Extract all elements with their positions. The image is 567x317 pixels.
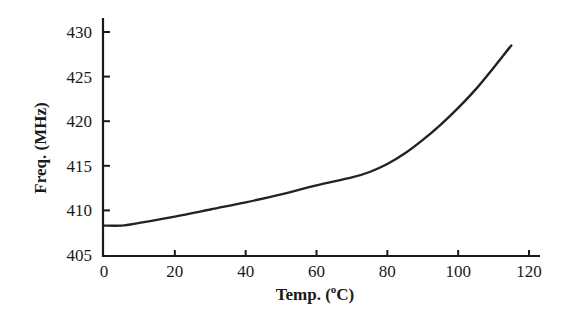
- x-axis-title: Temp. (oC): [276, 283, 355, 304]
- x-ticks: 020406080100120: [100, 250, 542, 281]
- x-tick-label: 0: [100, 262, 109, 281]
- x-tick-label: 100: [445, 262, 471, 281]
- y-tick-label: 425: [67, 68, 93, 87]
- x-tick-label: 120: [516, 262, 542, 281]
- x-tick-label: 60: [308, 262, 325, 281]
- y-tick-label: 415: [67, 157, 93, 176]
- x-tick-label: 40: [237, 262, 254, 281]
- y-axis-title: Freq. (MHz): [31, 102, 50, 193]
- y-tick-label: 410: [67, 201, 93, 220]
- y-tick-label: 420: [67, 112, 93, 131]
- x-tick-label: 80: [379, 262, 396, 281]
- y-tick-label: 430: [67, 23, 93, 42]
- y-tick-label: 405: [67, 246, 93, 265]
- data-line: [104, 45, 511, 225]
- x-tick-label: 20: [166, 262, 183, 281]
- axes: [102, 18, 540, 257]
- chart: 405410415420425430 020406080100120 Temp.…: [0, 0, 567, 317]
